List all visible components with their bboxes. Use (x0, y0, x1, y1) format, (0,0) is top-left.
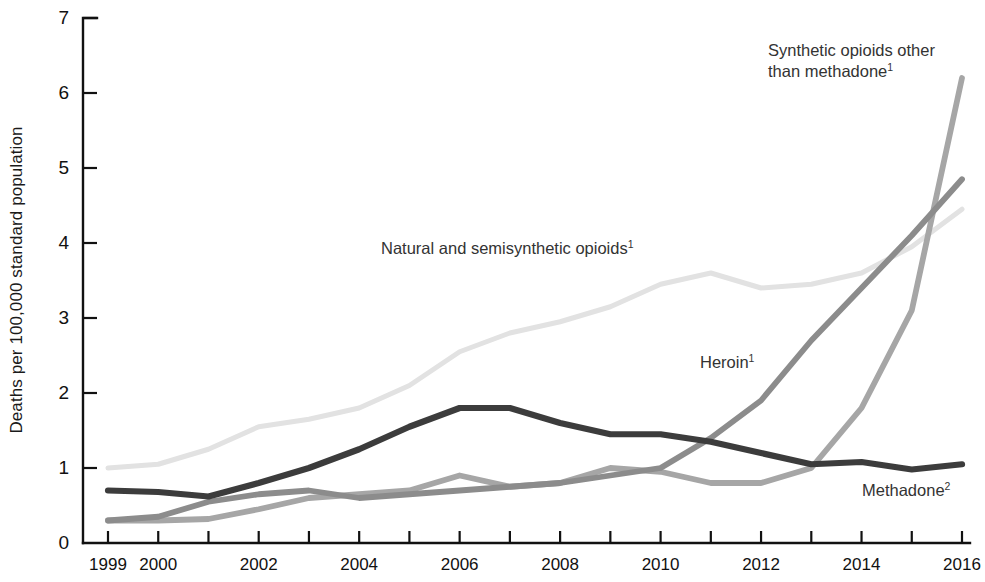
data-series-lines (108, 78, 962, 521)
y-axis-line (83, 18, 97, 543)
series-line-synthetic-opioids-other-than-methadone (108, 78, 962, 521)
series-line-heroin (108, 179, 962, 520)
series-line-natural-and-semisynthetic-opioids (108, 209, 962, 468)
